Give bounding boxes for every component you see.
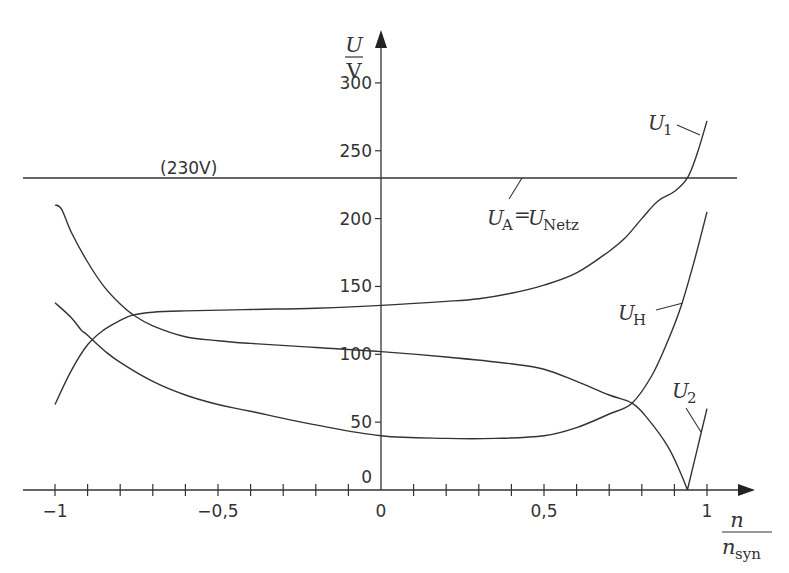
y-axis-label: U V [345,33,364,83]
y-label-numerator: U [345,33,364,57]
uh-label: U H [618,301,683,329]
y-tick-labels: 050100150200250300 [340,73,372,487]
x-axis-arrow-icon [738,484,755,496]
ua-unetz-label: U A = U Netz [487,203,579,234]
svg-text:1: 1 [663,121,673,139]
x-label-denominator-sub: syn [735,545,761,563]
y-label-denominator: V [345,59,362,83]
x-tick-label: 0 [376,501,387,521]
svg-text:H: H [633,311,646,329]
u1-label: U 1 [648,111,700,139]
x-tick-label: 0,5 [530,501,557,521]
svg-text:2: 2 [687,389,697,407]
y-tick-label: 50 [350,412,372,432]
axes [23,42,742,490]
x-axis-label: n n syn [722,508,772,563]
y-tick-label: 100 [340,344,372,364]
chart: −1−0,500,51 050100150200250300 U V n n s… [0,0,789,573]
y-tick-label: 0 [361,467,372,487]
y-axis-arrow-icon [375,30,387,48]
ua-leader-line [509,178,522,199]
x-tick-labels: −1−0,500,51 [42,501,712,521]
u2-label: U 2 [672,379,701,432]
svg-text:A: A [501,216,513,234]
x-label-numerator: n [730,508,744,532]
x-tick-label: 1 [702,501,713,521]
x-label-denominator: n [722,535,736,559]
y-tick-label: 200 [340,209,372,229]
x-tick-label: −1 [42,501,67,521]
y-tick-label: 250 [340,141,372,161]
reference-value-label: (230V) [160,158,217,178]
svg-text:Netz: Netz [543,216,579,234]
x-tick-label: −0,5 [197,501,238,521]
y-tick-label: 150 [340,276,372,296]
y-ticks [375,83,381,422]
